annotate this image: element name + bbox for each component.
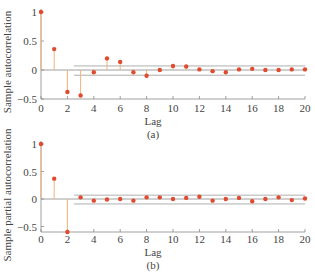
- data-point: [144, 74, 148, 78]
- chart-panel-pacf: 10.50−0.502468101214161820Lag(b)Sample p…: [1, 128, 311, 272]
- x-tick-label: 8: [144, 233, 150, 245]
- data-point: [39, 10, 43, 14]
- data-point: [144, 195, 148, 199]
- data-point: [263, 68, 267, 72]
- x-tick-label: 16: [247, 102, 259, 114]
- data-point: [197, 67, 201, 71]
- data-point: [92, 198, 96, 202]
- y-tick-label: 0.5: [23, 166, 37, 178]
- x-tick-label: 12: [194, 102, 205, 114]
- data-point: [224, 197, 228, 201]
- x-tick-label: 2: [65, 102, 71, 114]
- data-point: [224, 70, 228, 74]
- data-point: [290, 67, 294, 71]
- y-tick-label: −0.5: [17, 93, 37, 105]
- data-point: [197, 195, 201, 199]
- x-tick-label: 14: [220, 233, 232, 245]
- data-point: [158, 195, 162, 199]
- x-axis-label: Lag: [144, 246, 162, 258]
- x-tick-label: 0: [38, 102, 44, 114]
- data-point: [184, 196, 188, 200]
- x-tick-label: 8: [144, 102, 150, 114]
- data-point: [184, 64, 188, 68]
- x-tick-label: 10: [168, 102, 180, 114]
- data-point: [52, 176, 56, 180]
- data-point: [131, 70, 135, 74]
- data-point: [105, 197, 109, 201]
- data-point: [118, 60, 122, 64]
- x-tick-label: 20: [300, 233, 312, 245]
- data-point: [263, 197, 267, 201]
- data-point: [78, 195, 82, 199]
- data-point: [303, 67, 307, 71]
- x-tick-label: 4: [91, 102, 97, 114]
- data-point: [131, 198, 135, 202]
- data-point: [105, 56, 109, 60]
- x-tick-label: 20: [300, 102, 312, 114]
- y-axis-label: Sample autocorrelation: [1, 10, 13, 113]
- data-point: [158, 68, 162, 72]
- data-point: [276, 195, 280, 199]
- data-point: [39, 142, 43, 146]
- y-tick-label: 0: [32, 64, 38, 76]
- y-tick-label: −0.5: [17, 221, 37, 233]
- data-point: [303, 196, 307, 200]
- data-point: [210, 198, 214, 202]
- x-tick-label: 18: [273, 233, 285, 245]
- x-tick-label: 0: [38, 233, 44, 245]
- x-tick-label: 6: [117, 102, 123, 114]
- chart-panel-acf: 10.50−0.502468101214161820Lag(a)Sample a…: [1, 6, 311, 141]
- x-tick-label: 12: [194, 233, 205, 245]
- data-point: [65, 90, 69, 94]
- data-point: [210, 69, 214, 73]
- x-tick-label: 14: [220, 102, 232, 114]
- x-tick-label: 6: [117, 233, 123, 245]
- y-tick-label: 0: [32, 193, 38, 205]
- panel-caption: (b): [147, 259, 160, 272]
- data-point: [250, 199, 254, 203]
- x-tick-label: 4: [91, 233, 97, 245]
- y-tick-label: 1: [32, 6, 38, 18]
- x-tick-label: 10: [168, 233, 180, 245]
- y-tick-label: 1: [32, 138, 38, 150]
- data-point: [92, 70, 96, 74]
- data-point: [171, 64, 175, 68]
- data-point: [52, 47, 56, 51]
- data-point: [276, 68, 280, 72]
- data-point: [65, 230, 69, 234]
- data-point: [237, 67, 241, 71]
- acf-pacf-figure: 10.50−0.502468101214161820Lag(a)Sample a…: [0, 0, 315, 273]
- data-point: [250, 67, 254, 71]
- y-tick-label: 0.5: [23, 35, 37, 47]
- data-point: [171, 197, 175, 201]
- x-tick-label: 2: [65, 233, 71, 245]
- data-point: [78, 93, 82, 97]
- x-axis-label: Lag: [144, 115, 162, 127]
- y-axis-label: Sample partial autocorrelation: [1, 128, 13, 262]
- data-point: [118, 197, 122, 201]
- x-tick-label: 18: [273, 102, 285, 114]
- x-tick-label: 16: [247, 233, 259, 245]
- data-point: [290, 198, 294, 202]
- data-point: [237, 196, 241, 200]
- panel-caption: (a): [147, 128, 160, 141]
